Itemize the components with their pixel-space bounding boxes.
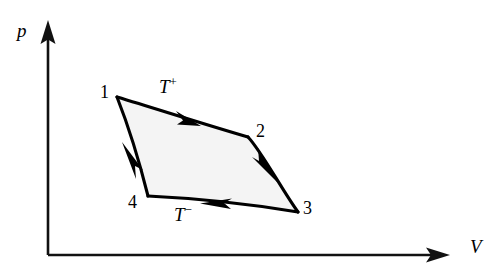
vertex-label-2: 2: [256, 121, 265, 142]
pressure-axis-label: p: [17, 20, 27, 42]
vertex-label-3: 3: [303, 198, 312, 219]
cold-isotherm-label-base: T: [174, 204, 185, 225]
hot-isotherm-label: T+: [159, 76, 177, 98]
vertex-label-1: 1: [100, 82, 109, 103]
vertex-label-4: 4: [128, 192, 137, 213]
cold-isotherm-label: T−: [174, 204, 192, 226]
hot-isotherm-label-base: T: [159, 76, 170, 97]
hot-isotherm-label-superscript: +: [170, 74, 177, 89]
cold-isotherm-label-superscript: −: [185, 202, 192, 217]
cycle-interior-fill: [117, 97, 298, 212]
pv-diagram-canvas: [0, 0, 499, 278]
volume-axis-label: V: [470, 236, 482, 258]
pv-diagram-figure: p V 1 2 3 4 T+ T−: [0, 0, 499, 278]
